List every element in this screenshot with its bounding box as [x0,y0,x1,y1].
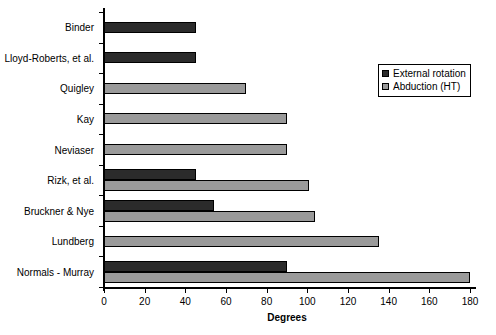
plot-area: 020406080100120140160180 [104,12,470,287]
x-axis-tick [470,287,471,293]
y-axis-category-labels: BinderLloyd-Roberts, et al.QuigleyKayNev… [0,12,100,287]
x-axis-tick [145,287,146,293]
x-axis-tick-label: 60 [206,296,246,307]
y-axis-category-label: Bruckner & Nye [0,205,94,216]
x-axis-tick-label: 140 [369,296,409,307]
x-axis-title: Degrees [104,312,470,323]
y-axis-category-label: Kay [0,113,94,124]
light-square-icon [382,83,389,90]
bar [104,22,196,33]
x-axis-tick-label: 120 [328,296,368,307]
y-axis-tick [99,165,105,166]
x-axis-tick [307,287,308,293]
x-axis-tick-label: 180 [450,296,490,307]
y-axis-tick [99,226,105,227]
y-axis-category-label: Lundberg [0,236,94,247]
bar [104,200,214,211]
y-axis-tick [99,195,105,196]
y-axis-category-label: Normals - Murray [0,266,94,277]
y-axis-category-label: Quigley [0,83,94,94]
bar [104,211,315,222]
y-axis-tick [99,256,105,257]
x-axis-tick [226,287,227,293]
chart-legend: External rotation Abduction (HT) [378,64,471,97]
x-axis-tick [185,287,186,293]
x-axis-line [103,287,476,289]
bar [104,261,287,272]
bar [104,144,287,155]
x-axis-tick [429,287,430,293]
bar-chart: BinderLloyd-Roberts, et al.QuigleyKayNev… [0,0,496,335]
bar [104,272,470,283]
legend-item-external-rotation: External rotation [382,67,466,80]
bar [104,169,196,180]
dark-square-icon [382,70,389,77]
x-axis-tick-label: 100 [287,296,327,307]
x-axis-tick [348,287,349,293]
bar [104,236,379,247]
x-axis-tick [104,287,105,293]
bar [104,83,246,94]
x-axis-tick-label: 40 [165,296,205,307]
x-axis-tick-label: 80 [247,296,287,307]
bar [104,180,309,191]
y-axis-tick [99,12,105,13]
legend-item-abduction-ht: Abduction (HT) [382,80,466,93]
x-axis-tick [389,287,390,293]
y-axis-category-label: Binder [0,22,94,33]
y-axis-category-label: Lloyd-Roberts, et al. [0,52,94,63]
y-axis-category-label: Neviaser [0,144,94,155]
x-axis-tick [267,287,268,293]
x-axis-tick-label: 20 [125,296,165,307]
y-axis-tick [99,104,105,105]
x-axis-tick-label: 0 [84,296,124,307]
y-axis-category-label: Rizk, et al. [0,175,94,186]
x-axis-tick-label: 160 [409,296,449,307]
y-axis-tick [99,134,105,135]
y-axis-tick [99,43,105,44]
bar [104,52,196,63]
legend-label: Abduction (HT) [393,81,460,92]
legend-label: External rotation [393,68,466,79]
bar [104,113,287,124]
y-axis-tick [99,73,105,74]
